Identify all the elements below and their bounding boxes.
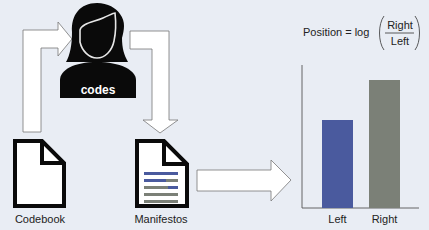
formula-right-paren — [415, 16, 420, 50]
chart-category-left: Left — [317, 213, 358, 225]
formula-numerator: Right — [385, 19, 415, 31]
bar-right — [369, 80, 400, 208]
chart-category-right: Right — [364, 213, 405, 225]
arrow-manifestos-to-chart — [197, 160, 291, 201]
blank-document-icon — [15, 141, 64, 206]
arrow-person-to-manifestos — [130, 31, 178, 133]
formula-left-paren — [380, 16, 385, 50]
formula-denominator: Left — [385, 35, 415, 47]
bar-left — [322, 120, 353, 208]
text-document-icon — [137, 141, 187, 206]
person-label: codes — [60, 83, 136, 97]
codebook-label: Codebook — [8, 213, 72, 225]
formula-lhs: Position = log — [303, 26, 369, 38]
manifestos-label: Manifestos — [128, 213, 194, 225]
